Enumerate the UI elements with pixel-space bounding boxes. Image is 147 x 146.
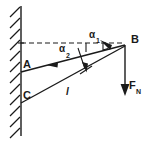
label-point-b: B	[131, 33, 139, 45]
angle-alpha1-marker	[100, 40, 112, 50]
label-alpha2-subscript: 2	[66, 52, 70, 59]
label-force-fn: F	[129, 79, 136, 91]
label-point-c: C	[23, 89, 31, 101]
cable-c-b	[21, 46, 125, 103]
label-alpha1: α	[89, 29, 96, 40]
wall-hatch-marks	[10, 7, 20, 138]
angle-alpha2-marker	[78, 43, 92, 74]
alpha1-pointer-arrow	[100, 40, 112, 50]
label-length-l: l	[66, 86, 69, 97]
cable-c-b-line	[21, 46, 125, 103]
label-alpha1-subscript: 1	[96, 37, 100, 44]
physics-diagram-figure: A C B α 1 α 2 F N l	[0, 0, 147, 146]
label-force-subscript: N	[136, 88, 141, 95]
label-point-a: A	[23, 58, 31, 70]
diagram-canvas: A C B α 1 α 2 F N l	[0, 0, 147, 146]
hatched-wall	[10, 6, 21, 138]
label-alpha2: α	[59, 43, 66, 54]
